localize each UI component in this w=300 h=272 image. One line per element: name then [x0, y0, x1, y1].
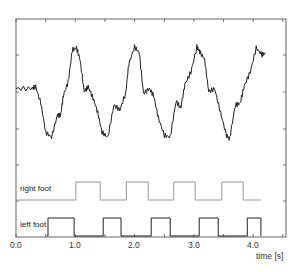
x-tick-3: 3.0: [188, 240, 200, 250]
left-foot-step-line: [47, 218, 261, 236]
x-axis-label: time [s]: [256, 251, 283, 261]
right-foot-step-line: [16, 182, 261, 200]
signal-line: [16, 45, 265, 141]
x-tick-1: 1.0: [69, 240, 81, 250]
gait-chart: right foot left foot 0.0 1.0 2.0 3.0 4.0…: [0, 0, 300, 272]
x-tick-2: 2.0: [128, 240, 140, 250]
right-foot-label: right foot: [20, 184, 52, 193]
x-tick-0: 0.0: [10, 240, 22, 250]
x-tick-4: 4.0: [247, 240, 259, 250]
plot-frame: [16, 19, 286, 237]
left-foot-label: left foot: [20, 220, 47, 229]
axis-ticks: [16, 19, 286, 237]
